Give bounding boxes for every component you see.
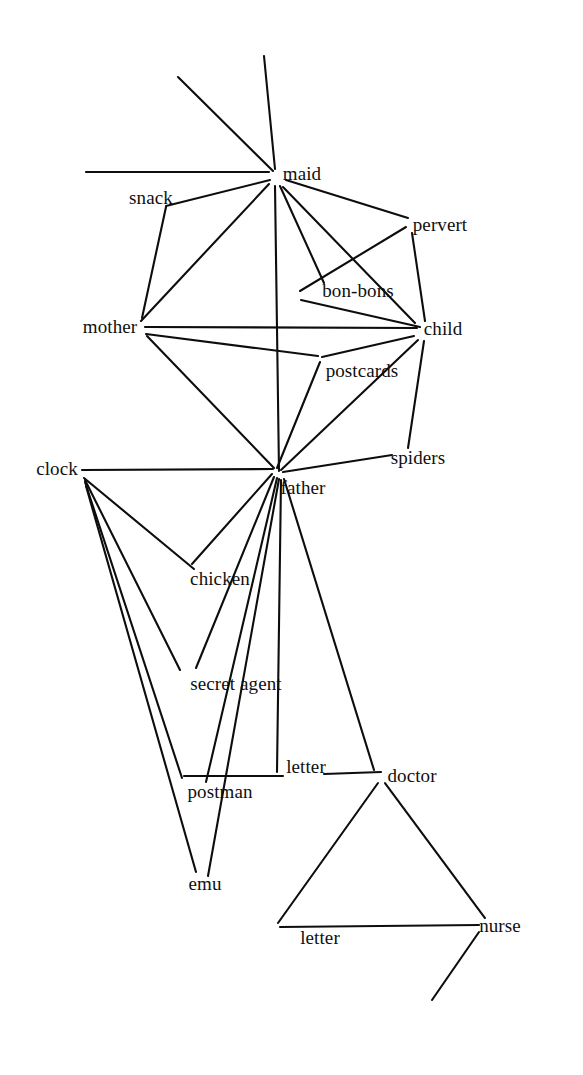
node-label-chicken[interactable]: chicken (190, 569, 250, 588)
edge-maid-to-pervert (286, 180, 408, 218)
edge-maid-to-dangle-up-left (178, 77, 273, 171)
edge-clock-to-secret-agent (85, 480, 180, 670)
edge-pervert-to-child (412, 233, 425, 321)
node-label-letter-upper[interactable]: letter (286, 757, 326, 776)
node-label-snack[interactable]: snack (129, 188, 173, 207)
node-label-bon-bons[interactable]: bon-bons (322, 281, 394, 300)
node-label-letter-lower[interactable]: letter (300, 928, 340, 947)
edge-mother-to-father (147, 336, 274, 468)
edge-mother-to-postcards (146, 334, 318, 356)
edge-maid-to-snack (166, 180, 270, 206)
edge-clock-to-postman (85, 482, 182, 778)
node-label-postman[interactable]: postman (187, 782, 252, 801)
edge-doctor-to-nurse (385, 783, 485, 918)
edge-child-to-spiders (408, 341, 424, 448)
edge-doctor-to-letter-lower (278, 783, 378, 923)
edge-maid-to-child (283, 187, 415, 323)
edge-mother-to-child (145, 327, 417, 328)
edge-letter-upper-to-doctor (324, 772, 381, 774)
node-label-father[interactable]: father (281, 478, 326, 497)
node-label-maid[interactable]: maid (283, 164, 321, 183)
node-label-postcards[interactable]: postcards (326, 361, 399, 380)
edge-nurse-to-dangle-down-left (432, 932, 479, 1000)
edge-clock-to-father (82, 469, 273, 470)
node-label-child[interactable]: child (424, 319, 463, 338)
edge-clock-to-chicken (84, 478, 194, 569)
network-diagram: maidsnackpervertbon-bonsmotherchildpostc… (0, 0, 583, 1075)
node-label-mother[interactable]: mother (83, 317, 137, 336)
edge-maid-to-dangle-up (264, 56, 275, 169)
node-label-nurse[interactable]: nurse (479, 916, 521, 935)
node-label-spiders[interactable]: spiders (391, 448, 446, 467)
edge-father-to-postman (206, 478, 277, 782)
node-label-emu[interactable]: emu (188, 874, 221, 893)
node-label-clock[interactable]: clock (36, 459, 78, 478)
edge-father-to-doctor (284, 479, 374, 770)
edge-spiders-to-father (283, 455, 392, 472)
edge-snack-to-mother (142, 207, 166, 318)
edge-clock-to-emu (86, 486, 196, 872)
edge-child-to-postcards-left (322, 336, 414, 357)
edge-bon-bons-to-child (301, 300, 420, 327)
edge-maid-to-bon-bons (280, 186, 324, 283)
node-label-doctor[interactable]: doctor (387, 766, 436, 785)
edge-father-to-letter-upper (277, 480, 281, 772)
node-label-secret-agent[interactable]: secret agent (190, 674, 281, 693)
node-label-pervert[interactable]: pervert (413, 215, 468, 234)
